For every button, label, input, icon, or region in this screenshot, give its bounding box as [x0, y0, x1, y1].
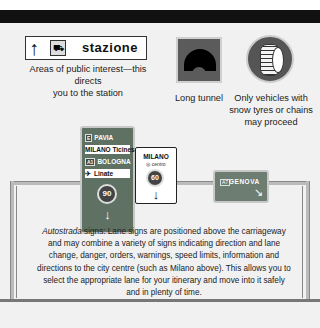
ground-line	[0, 299, 320, 302]
caption-line: Areas of public interest—this directs	[18, 63, 158, 87]
caption-line: Only vehicles with	[228, 92, 314, 104]
snow-caption: Only vehicles with snow tyres or chains …	[228, 92, 314, 128]
gantry-pole-right	[306, 181, 310, 299]
arrow-down-icon: ↓	[82, 208, 133, 221]
italic-term: Autostrada	[42, 227, 82, 236]
lane-sign-green: EPAVIA MILANO Ticinese A1BOLOGNA ✈Linate…	[80, 126, 135, 234]
station-caption: Areas of public interest—this directs yo…	[18, 63, 158, 99]
caption-line: you to the station	[18, 87, 158, 99]
destination-row: EPAVIA	[85, 133, 130, 142]
tunnel-icon	[176, 37, 222, 83]
tunnel-caption: Long tunnel	[160, 92, 238, 104]
destination-text: Linate	[94, 170, 113, 177]
frame-line-left	[16, 186, 17, 298]
route-badge: A1	[85, 158, 95, 166]
destination-text: MILANO	[136, 153, 176, 160]
station-label: stazione	[82, 40, 138, 55]
header-bar	[0, 10, 320, 23]
destination-text: BOLOGNA	[97, 158, 130, 165]
destination-text: MILANO Ticinese	[85, 146, 138, 153]
airport-icon: ✈	[85, 170, 91, 177]
destination-row: A1BOLOGNA	[85, 157, 130, 166]
caption-line: snow tyres or chains	[228, 104, 314, 116]
snow-tyre-icon	[246, 35, 294, 83]
caption-line: may proceed	[228, 116, 314, 128]
station-sign: ↑ ⛟ stazione	[25, 36, 147, 60]
speed-limit-badge: 60	[146, 169, 164, 187]
lane-sign-milano: MILANO ◎ centro 60 ↓	[135, 147, 177, 204]
description-text: Autostrada signs: Lane signs are positio…	[36, 226, 292, 299]
arrow-down-icon: ↓	[136, 188, 176, 201]
destination-text: PAVIA	[94, 134, 113, 141]
speed-limit-badge: 90	[97, 184, 117, 204]
train-icon: ⛟	[50, 40, 66, 56]
arrow-up-icon: ↑	[29, 38, 39, 58]
destination-text: GENOVA	[229, 178, 260, 185]
gantry-pole-left	[10, 181, 14, 299]
description-body: signs: Lane signs are positioned above t…	[37, 227, 291, 297]
arrow-diagonal-icon: ↘	[254, 186, 263, 199]
destination-row: MILANO Ticinese	[85, 145, 130, 154]
centre-label: ◎ centro	[136, 161, 176, 167]
route-badge: E	[85, 134, 92, 142]
destination-row: ✈Linate	[85, 169, 130, 178]
frame-line-right	[302, 186, 303, 298]
lane-sign-genova: A7 GENOVA ↘	[213, 170, 269, 203]
